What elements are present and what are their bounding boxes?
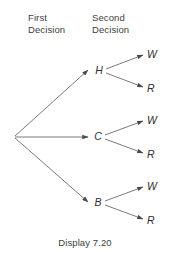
- leaf-label-B-R: R: [147, 214, 163, 226]
- decision-tree-figure: First Decision Second Decision H C B W R…: [0, 0, 170, 260]
- first-decision-edges: [15, 70, 88, 202]
- edge-C-to-W: [105, 121, 143, 135]
- leaf-label-H-W: W: [147, 48, 163, 60]
- second-decision-edges: [105, 55, 143, 219]
- edge-root-to-B: [15, 138, 88, 202]
- edge-root-to-H: [15, 70, 88, 136]
- edge-H-to-W: [106, 55, 143, 69]
- edge-H-to-R: [106, 73, 143, 87]
- edge-C-to-R: [105, 139, 143, 153]
- edge-B-to-W: [105, 187, 143, 201]
- leaf-label-C-W: W: [147, 114, 163, 126]
- leaf-label-C-R: R: [147, 148, 163, 160]
- figure-caption: Display 7.20: [0, 237, 170, 248]
- node-label-H: H: [92, 64, 106, 76]
- edge-B-to-R: [105, 205, 143, 219]
- node-label-B: B: [91, 196, 105, 208]
- leaf-label-H-R: R: [147, 82, 163, 94]
- node-label-C: C: [91, 130, 105, 142]
- tree-diagram-svg: [0, 0, 170, 260]
- leaf-label-B-W: W: [147, 180, 163, 192]
